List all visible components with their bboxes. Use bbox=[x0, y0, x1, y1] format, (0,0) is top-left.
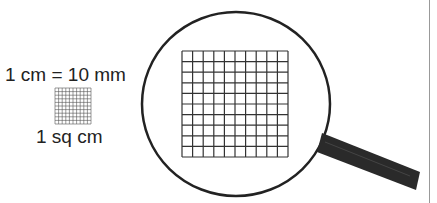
small-grid-1cm bbox=[55, 88, 91, 124]
magnifier-handle bbox=[317, 133, 420, 190]
divider-line bbox=[429, 0, 430, 203]
magnified-grid bbox=[182, 51, 288, 157]
area-label: 1 sq cm bbox=[36, 126, 103, 148]
magnifier-diagram bbox=[0, 0, 437, 203]
equation-label: 1 cm = 10 mm bbox=[5, 64, 126, 86]
